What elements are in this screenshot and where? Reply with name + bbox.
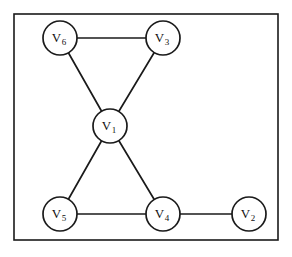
graph-edge-V1-V5 <box>68 141 101 199</box>
node-layer: V1V2V3V4V5V6 <box>43 21 266 231</box>
graph-node-V1[interactable]: V1 <box>93 109 127 143</box>
graph-node-V5[interactable]: V5 <box>43 197 77 231</box>
graph-edge-V1-V4 <box>119 141 154 200</box>
graph-figure: V1V2V3V4V5V6 <box>0 0 292 257</box>
graph-edge-V6-V1 <box>68 53 101 111</box>
graph-node-V4[interactable]: V4 <box>146 197 180 231</box>
graph-node-V2[interactable]: V2 <box>232 197 266 231</box>
graph-canvas: V1V2V3V4V5V6 <box>0 0 292 257</box>
graph-node-V3[interactable]: V3 <box>146 21 180 55</box>
graph-edge-V3-V1 <box>119 53 154 112</box>
graph-node-V6[interactable]: V6 <box>43 21 77 55</box>
